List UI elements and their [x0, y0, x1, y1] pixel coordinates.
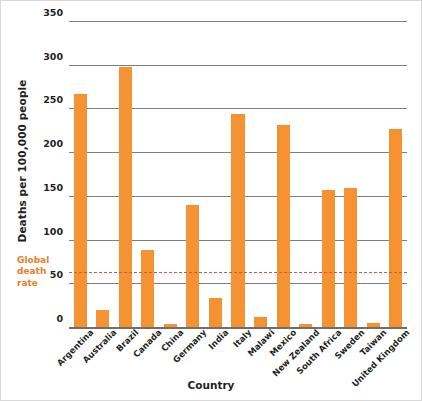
y-tick-label-200: 200 — [43, 139, 63, 149]
bar-new-zealand — [299, 324, 312, 327]
bar-sweden — [344, 188, 357, 327]
y-tick-label-150: 150 — [43, 183, 63, 193]
bar-brazil — [119, 67, 132, 327]
bar-germany — [186, 205, 199, 327]
bar-italy — [231, 114, 244, 327]
global-death-rate-label: Globaldeathrate — [17, 255, 69, 290]
bar-canada — [141, 250, 154, 327]
plot-area: 050100150200250300350 — [69, 21, 407, 327]
x-tick-label-india: India — [208, 328, 231, 351]
bar-india — [209, 298, 222, 327]
y-axis-title: Deaths per 100,000 people — [11, 61, 33, 261]
bar-china — [164, 324, 177, 327]
global-death-rate-label-line-2: death — [17, 266, 69, 278]
bar-australia — [96, 310, 109, 327]
y-tick-label-350: 350 — [43, 8, 63, 17]
global-death-rate-label-line-1: Global — [17, 255, 69, 267]
bar-united-kingdom — [389, 129, 402, 327]
x-axis-title: Country — [1, 379, 421, 391]
bar-south-africa — [322, 190, 335, 327]
bar-mexico — [277, 125, 290, 327]
bar-chart-figure: Deaths per 100,000 people 05010015020025… — [0, 0, 422, 401]
global-death-rate-line — [69, 272, 407, 273]
y-tick-label-100: 100 — [43, 227, 63, 237]
y-axis-title-text: Deaths per 100,000 people — [16, 80, 28, 243]
bar-argentina — [74, 94, 87, 327]
y-tick-label-0: 0 — [56, 314, 63, 324]
y-tick-label-300: 300 — [43, 52, 63, 62]
bars-group — [69, 21, 407, 327]
bar-taiwan — [367, 323, 380, 327]
global-death-rate-label-line-3: rate — [17, 278, 69, 290]
y-tick-label-250: 250 — [43, 96, 63, 106]
bar-malawi — [254, 317, 267, 327]
